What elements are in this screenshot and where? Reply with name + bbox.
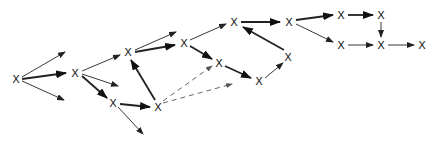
arrow-edge bbox=[82, 76, 107, 98]
node-x-mark: X bbox=[377, 9, 385, 22]
arrow-edge bbox=[296, 15, 333, 20]
arrow-edge bbox=[265, 63, 283, 78]
arrow-edge bbox=[118, 107, 143, 134]
node-x-mark: X bbox=[180, 37, 188, 50]
node-x-mark: X bbox=[337, 9, 345, 22]
node-x-mark: X bbox=[230, 16, 238, 29]
node-x-mark: X bbox=[12, 73, 20, 86]
node-x-mark: X bbox=[284, 51, 292, 64]
arrow-edge bbox=[225, 66, 251, 78]
node-x-mark: X bbox=[418, 39, 426, 52]
node-x-mark: X bbox=[337, 39, 345, 52]
node-x-mark: X bbox=[124, 46, 132, 59]
dashed-arrow-edge bbox=[163, 66, 212, 101]
arrow-edge bbox=[22, 81, 64, 100]
directed-graph-diagram: XXXXXXXXXXXXXXXX bbox=[0, 0, 435, 141]
arrow-edge bbox=[296, 24, 333, 42]
node-x-mark: X bbox=[109, 97, 117, 110]
arrow-edge bbox=[190, 46, 212, 59]
arrow-edge bbox=[135, 45, 175, 52]
node-x-mark: X bbox=[154, 101, 162, 114]
arrow-edge bbox=[22, 73, 66, 79]
edges-layer bbox=[22, 15, 414, 134]
node-x-mark: X bbox=[71, 67, 79, 80]
node-x-mark: X bbox=[215, 57, 223, 70]
arrow-edge bbox=[190, 24, 226, 40]
nodes-layer: XXXXXXXXXXXXXXXX bbox=[12, 9, 426, 114]
arrow-edge bbox=[82, 55, 120, 71]
node-x-mark: X bbox=[255, 75, 263, 88]
node-x-mark: X bbox=[377, 39, 385, 52]
arrow-edge bbox=[135, 32, 176, 50]
node-x-mark: X bbox=[285, 16, 293, 29]
arrow-edge bbox=[120, 104, 150, 107]
arrow-edge bbox=[131, 60, 155, 100]
arrow-edge bbox=[243, 27, 284, 50]
